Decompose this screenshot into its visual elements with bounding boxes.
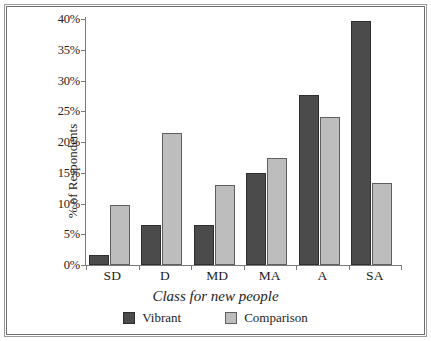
y-tick-label: 20% — [58, 135, 86, 150]
bar-sa-comparison — [372, 183, 392, 265]
bar-d-vibrant — [141, 225, 161, 265]
chart-legend: VibrantComparison — [0, 310, 431, 326]
bar-group-ma — [244, 19, 297, 265]
x-category-label-sa: SA — [366, 268, 383, 284]
legend-entry-comparison[interactable]: Comparison — [225, 310, 308, 326]
y-tick-label: 10% — [58, 196, 86, 211]
x-category-label-sd: SD — [104, 268, 121, 284]
y-tick-label: 25% — [58, 104, 86, 119]
x-tick-mark — [86, 265, 87, 270]
x-tick-mark — [401, 265, 402, 270]
bar-ma-comparison — [267, 158, 287, 265]
legend-entry-vibrant[interactable]: Vibrant — [123, 310, 181, 326]
y-tick-label: 5% — [64, 227, 86, 242]
y-tick-label: 15% — [58, 165, 86, 180]
bar-sa-vibrant — [351, 21, 371, 265]
y-tick-label: 0% — [64, 258, 86, 273]
x-tick-mark — [191, 265, 192, 270]
legend-swatch-comparison-icon — [225, 312, 237, 324]
bar-chart-figure: % of Respondents 0%5%10%15%20%25%30%35%4… — [0, 0, 431, 341]
bar-a-vibrant — [299, 95, 319, 265]
bar-a-comparison — [320, 117, 340, 265]
x-category-label-d: D — [160, 268, 170, 284]
x-tick-mark — [349, 265, 350, 270]
bar-group-a — [296, 19, 349, 265]
y-tick-label: 35% — [58, 42, 86, 57]
legend-swatch-vibrant-icon — [123, 312, 135, 324]
x-tick-mark — [296, 265, 297, 270]
bar-group-sd — [86, 19, 139, 265]
legend-label-comparison: Comparison — [244, 310, 308, 326]
bar-sd-comparison — [110, 205, 130, 265]
x-tick-mark — [244, 265, 245, 270]
x-category-label-md: MD — [206, 268, 228, 284]
y-tick-label: 30% — [58, 73, 86, 88]
y-tick-label: 40% — [58, 12, 86, 27]
bars-layer — [86, 19, 401, 265]
bar-sd-vibrant — [89, 255, 109, 265]
legend-label-vibrant: Vibrant — [142, 310, 181, 326]
bar-md-vibrant — [194, 225, 214, 265]
x-category-label-ma: MA — [259, 268, 281, 284]
x-tick-mark — [139, 265, 140, 270]
x-axis-title: Class for new people — [0, 288, 431, 305]
plot-area: 0%5%10%15%20%25%30%35%40% — [86, 19, 401, 265]
bar-group-md — [191, 19, 244, 265]
bar-group-d — [139, 19, 192, 265]
bar-md-comparison — [215, 185, 235, 265]
x-category-label-a: A — [317, 268, 327, 284]
bar-ma-vibrant — [246, 173, 266, 265]
bar-d-comparison — [162, 133, 182, 265]
bar-group-sa — [349, 19, 402, 265]
